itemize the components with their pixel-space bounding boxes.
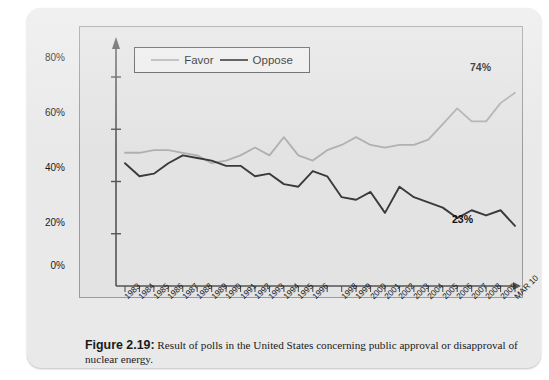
legend-entry-favor: Favor: [151, 54, 213, 66]
y-tick-label-20: 20%: [31, 217, 65, 228]
y-tick-label-80: 80%: [31, 52, 65, 63]
legend-entry-oppose: Oppose: [220, 54, 293, 66]
y-tick-label-60: 60%: [31, 107, 65, 118]
chart-legend: Favor Oppose: [134, 47, 310, 73]
figure-caption: Figure 2.19: Result of polls in the Unit…: [85, 338, 535, 366]
legend-label-favor: Favor: [184, 54, 213, 66]
oppose-endpoint-label: 23%: [452, 213, 473, 225]
favor-endpoint-label: 74%: [470, 61, 491, 73]
legend-line-oppose-icon: [220, 59, 248, 61]
y-tick-label-0: 0%: [31, 260, 65, 271]
y-tick-label-40: 40%: [31, 162, 65, 173]
figure-number: Figure 2.19:: [85, 338, 155, 352]
figure-card: 80% 60% 40% 20% 0% 198319841985198619871…: [27, 8, 541, 368]
figure-page: Based on NEI. http://lh6.ggpht.com/markj…: [0, 0, 549, 380]
legend-label-oppose: Oppose: [253, 54, 293, 66]
legend-line-favor-icon: [151, 59, 179, 61]
